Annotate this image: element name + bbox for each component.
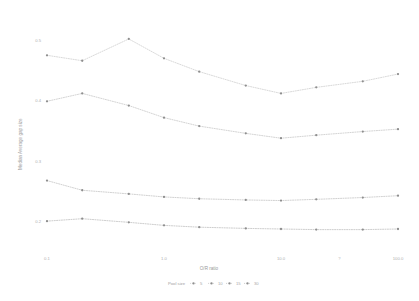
legend-item-label: 15 [236,281,241,286]
y-tick-label: 0.2 [35,219,41,224]
legend-item-label: 10 [218,281,223,286]
data-point [397,73,399,75]
data-point [46,220,48,222]
data-point [81,218,83,220]
y-tick-label: 0.3 [35,159,41,164]
data-point [46,100,48,102]
data-point [46,54,48,56]
x-tick-label: 0.1 [44,256,50,261]
x-tick-label: 10.0 [277,256,286,261]
data-point [280,92,282,94]
x-axis-title: O/R ratio [200,266,219,271]
data-point [128,221,130,223]
legend-item-label: 30 [254,281,259,286]
data-point [163,196,165,198]
x-tick-label: 100.0 [393,256,404,261]
chart-container: 0.50.40.30.2 0.11.010.0?100.0 Median Ave… [0,0,419,301]
data-point [362,130,364,132]
data-point [280,199,282,201]
data-point [128,38,130,40]
data-point [81,92,83,94]
y-tick-label: 0.4 [35,98,41,103]
data-point [198,198,200,200]
data-point [163,116,165,118]
data-point [128,193,130,195]
data-point [245,132,247,134]
line-chart: 0.50.40.30.2 0.11.010.0?100.0 Median Ave… [0,0,419,301]
data-point [163,224,165,226]
data-point [397,128,399,130]
data-point [198,70,200,72]
data-point [280,228,282,230]
data-point [46,179,48,181]
legend-point-icon [192,282,194,284]
data-point [245,227,247,229]
data-point [315,86,317,88]
legend-point-icon [246,282,248,284]
data-point [128,104,130,106]
data-point [81,189,83,191]
data-point [362,196,364,198]
data-point [315,228,317,230]
data-point [81,60,83,62]
legend-point-icon [210,282,212,284]
y-axis-title: Median Average gap size [18,118,23,170]
data-point [198,125,200,127]
data-point [280,137,282,139]
data-point [245,199,247,201]
x-tick-label: 1.0 [161,256,167,261]
data-point [397,195,399,197]
legend-point-icon [228,282,230,284]
data-point [315,198,317,200]
data-point [163,57,165,59]
chart-background [0,0,419,301]
data-point [362,228,364,230]
data-point [198,226,200,228]
data-point [245,84,247,86]
data-point [397,228,399,230]
data-point [362,80,364,82]
legend-title: Pool size [168,281,186,286]
y-tick-label: 0.5 [35,38,41,43]
data-point [315,134,317,136]
